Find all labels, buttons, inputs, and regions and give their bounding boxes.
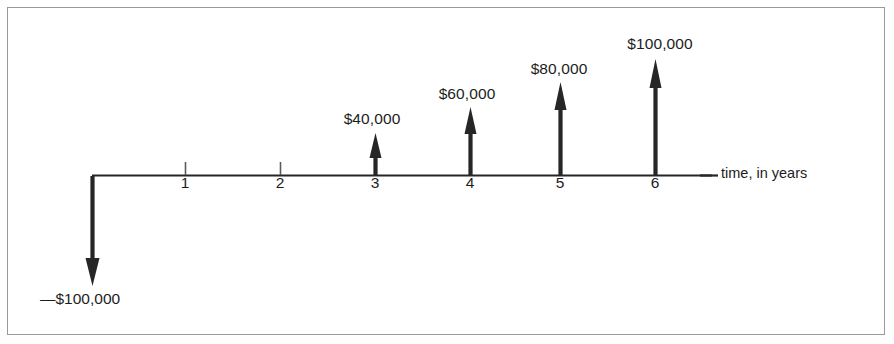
tick-label-year-1: 1 [181,174,190,192]
cash-flow-arrow-year-4 [465,107,477,175]
cash-flow-arrow-year-5 [555,82,567,175]
tick-label-year-6: 6 [651,174,660,192]
cash-flow-arrow-year-6 [650,59,662,175]
tick-label-year-4: 4 [466,174,475,192]
cash-flow-diagram: 1 2 3 4 5 6 time, in years $40,000 $60,0… [0,0,894,344]
tick-label-year-3: 3 [371,174,380,192]
axis-title-time: time, in years [721,165,807,181]
cash-flow-arrow-initial-outflow [86,176,100,286]
cash-flow-label-year-6: $100,000 [627,35,692,53]
cash-flow-label-year-4: $60,000 [439,85,496,103]
cash-flow-label-year-3: $40,000 [344,110,401,128]
cash-flow-label-year-5: $80,000 [531,60,588,78]
cash-flow-label-initial-outflow: —$100,000 [40,290,120,308]
tick-label-year-2: 2 [276,174,285,192]
cash-flow-arrow-year-3 [370,133,382,175]
tick-label-year-5: 5 [556,174,565,192]
